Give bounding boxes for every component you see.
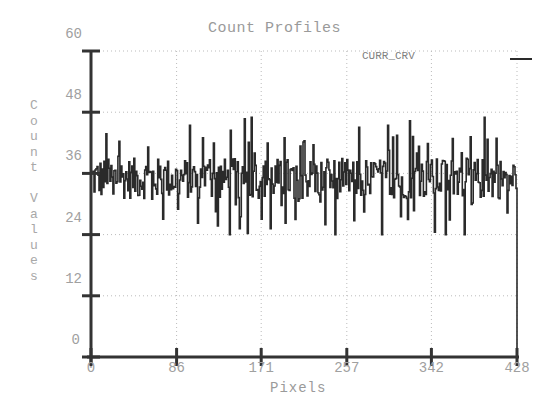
axes <box>82 51 519 366</box>
x-tick-label: 428 <box>497 360 537 376</box>
x-tick-label: 86 <box>157 360 197 376</box>
chart-canvas <box>0 0 549 418</box>
y-label-char: e <box>27 253 41 269</box>
y-label-char: t <box>27 160 41 176</box>
y-label-char: u <box>27 238 41 254</box>
y-label-char: V <box>27 191 41 207</box>
x-axis-label: Pixels <box>270 380 326 396</box>
y-axis-label: CountValues <box>27 98 41 284</box>
y-label-char: s <box>27 269 41 285</box>
x-tick-label: 171 <box>241 360 281 376</box>
series-curr-crv <box>91 117 517 357</box>
y-tick-label: 60 <box>52 26 82 42</box>
y-label-char: o <box>27 114 41 130</box>
y-label-char: C <box>27 98 41 114</box>
y-tick-label: 0 <box>50 332 80 348</box>
x-tick-label: 342 <box>411 360 451 376</box>
y-label-char: n <box>27 145 41 161</box>
y-tick-label: 48 <box>52 87 82 103</box>
y-tick-label: 24 <box>52 210 82 226</box>
grid-lines <box>91 51 517 357</box>
chart-title: Count Profiles <box>0 20 549 37</box>
y-label-char <box>27 176 41 192</box>
y-label-char: u <box>27 129 41 145</box>
y-tick-label: 12 <box>52 271 82 287</box>
y-label-char: l <box>27 222 41 238</box>
y-tick-label: 36 <box>52 148 82 164</box>
y-label-char: a <box>27 207 41 223</box>
legend-label: CURR_CRV <box>362 50 415 62</box>
x-tick-label: 0 <box>71 360 111 376</box>
x-tick-label: 257 <box>327 360 367 376</box>
